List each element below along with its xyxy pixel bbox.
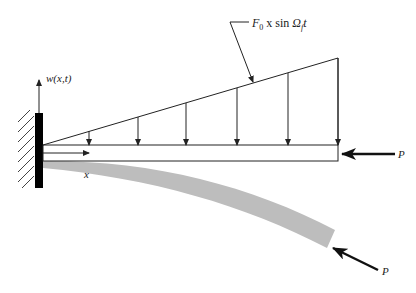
x-axis-label: x <box>83 168 89 180</box>
fixed-wall <box>35 113 43 188</box>
load-envelope <box>43 58 338 145</box>
axial-force-label-bottom: P <box>381 265 389 277</box>
load-label: F0 x sin Ωft <box>251 16 307 32</box>
axial-force-label-top: P <box>397 148 405 160</box>
load-leader-line <box>230 22 253 82</box>
diagram-canvas: w(x,t) x F0 x sin Ωft P P <box>0 0 416 293</box>
deflection-label: w(x,t) <box>46 72 72 85</box>
load-arrows <box>89 58 338 145</box>
axial-force-arrow-bottom <box>333 248 378 270</box>
wall-hatching <box>18 110 34 188</box>
